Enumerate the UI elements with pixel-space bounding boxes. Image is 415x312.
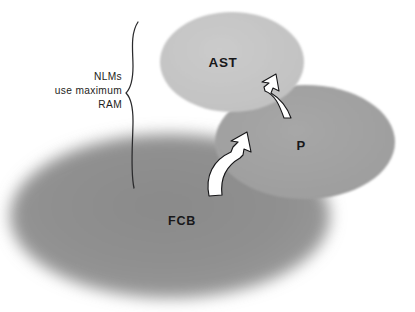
annotation-line-2: use maximum xyxy=(55,85,122,96)
annotation-line-3: RAM xyxy=(98,99,122,110)
nlms-annotation: NLMs use maximum RAM xyxy=(55,71,122,110)
shape-ast: AST xyxy=(160,12,304,112)
fcb-label: FCB xyxy=(168,214,196,228)
ast-label: AST xyxy=(209,55,238,70)
p-label: P xyxy=(296,138,305,153)
annotation-line-1: NLMs xyxy=(94,71,122,82)
diagram-canvas: FCB P AST NLMs use maximum RAM xyxy=(0,0,415,312)
diagram-svg: FCB P AST NLMs use maximum RAM xyxy=(0,0,415,312)
